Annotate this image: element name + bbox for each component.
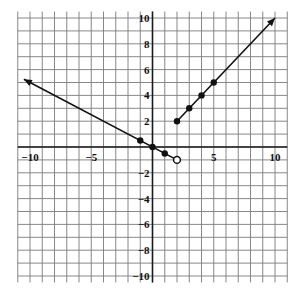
y-tick-label: −2 [138,167,150,179]
y-tick-label: 6 [144,64,150,76]
y-tick-label: −8 [138,244,150,256]
y-tick-label: −4 [138,193,150,205]
filled-point [174,118,180,124]
y-tick-label: −6 [138,218,150,230]
y-tick-label: 2 [144,115,150,127]
filled-point [149,144,155,150]
filled-point [137,137,143,143]
filled-point [211,79,217,85]
x-tick-label: 5 [211,151,217,163]
y-tick-label: 4 [144,89,150,101]
filled-point [162,150,168,156]
x-tick-label: 10 [270,151,282,163]
y-tick-label: 10 [139,12,151,24]
open-point [174,157,181,164]
y-tick-label: 8 [144,38,150,50]
filled-point [186,105,192,111]
filled-point [198,92,204,98]
piecewise-graph: −10−5510108642−2−4−6−8−10 [0,0,300,301]
x-tick-label: −10 [21,151,39,163]
y-tick-label: −10 [132,270,150,282]
x-tick-label: −5 [85,151,97,163]
